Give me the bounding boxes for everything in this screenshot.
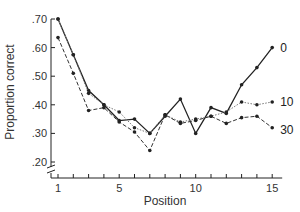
data-point <box>148 132 152 136</box>
y-tick-label: .30 <box>32 127 47 139</box>
x-axis-title: Position <box>144 194 187 208</box>
series-lines: 01030 <box>56 17 294 152</box>
y-tick-label: .60 <box>32 42 47 54</box>
x-tick-label: 15 <box>266 182 278 194</box>
axis-break-icon <box>47 170 55 173</box>
data-point <box>194 132 198 136</box>
data-point <box>72 53 76 57</box>
data-point <box>56 36 60 40</box>
data-point <box>117 110 121 114</box>
data-point <box>209 106 213 110</box>
data-point <box>87 109 91 113</box>
data-point <box>163 113 167 117</box>
data-point <box>133 130 137 134</box>
data-point <box>194 119 198 123</box>
y-axis-title: Proportion correct <box>3 44 17 140</box>
data-point <box>255 114 259 118</box>
axes: .70.60.50.40.30.20151015 <box>32 13 282 194</box>
data-point <box>240 116 244 120</box>
data-point <box>56 17 60 21</box>
series-0: 0 <box>56 17 287 135</box>
data-point <box>270 126 274 130</box>
data-point <box>209 114 213 118</box>
series-label: 0 <box>280 41 287 55</box>
y-tick-label: .70 <box>32 13 47 25</box>
data-point <box>240 83 244 87</box>
data-point <box>148 149 152 153</box>
y-tick-label: .40 <box>32 99 47 111</box>
data-point <box>179 97 183 101</box>
x-tick-label: 1 <box>55 182 61 194</box>
data-point <box>102 106 106 110</box>
data-point <box>225 122 229 126</box>
y-tick-label: .20 <box>32 156 47 168</box>
data-point <box>255 66 259 70</box>
data-point <box>87 92 91 96</box>
line-chart: .70.60.50.40.30.20151015 01030 Position … <box>0 0 300 212</box>
data-point <box>270 46 274 50</box>
series-label: 30 <box>280 123 294 137</box>
data-point <box>225 110 229 114</box>
data-point <box>133 117 137 121</box>
data-point <box>179 122 183 126</box>
data-point <box>255 103 259 107</box>
x-tick-label: 10 <box>190 182 202 194</box>
series-label: 10 <box>280 95 294 109</box>
y-tick-label: .50 <box>32 70 47 82</box>
x-tick-label: 5 <box>116 182 122 194</box>
data-point <box>72 72 76 76</box>
data-point <box>133 126 137 130</box>
data-point <box>240 100 244 104</box>
data-point <box>117 120 121 124</box>
data-point <box>270 100 274 104</box>
